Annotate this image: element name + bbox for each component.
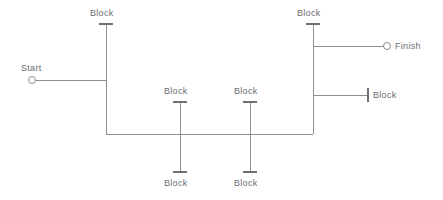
block-label-mid-left-up: Block — [164, 86, 188, 96]
block-label-mid-left-down: Block — [164, 178, 188, 188]
block-label-top-left: Block — [90, 8, 114, 18]
start-label: Start — [21, 63, 42, 73]
block-label-top-right: Block — [297, 8, 321, 18]
block-label-mid-right-up: Block — [234, 86, 258, 96]
block-label-right-side: Block — [373, 90, 397, 100]
block-label-mid-right-down: Block — [234, 178, 258, 188]
finish-node-circle[interactable] — [384, 43, 391, 50]
finish-label: Finish — [395, 41, 421, 51]
diagram-canvas: Start Finish Block Block Block Block Blo… — [0, 0, 443, 200]
start-node-circle[interactable] — [29, 77, 36, 84]
diagram-svg — [0, 0, 443, 200]
